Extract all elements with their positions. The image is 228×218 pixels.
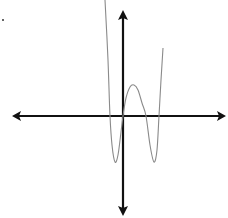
stray-dot <box>2 19 4 21</box>
polynomial-graph <box>0 0 228 218</box>
function-curve <box>105 0 163 162</box>
x-axis <box>12 111 226 121</box>
